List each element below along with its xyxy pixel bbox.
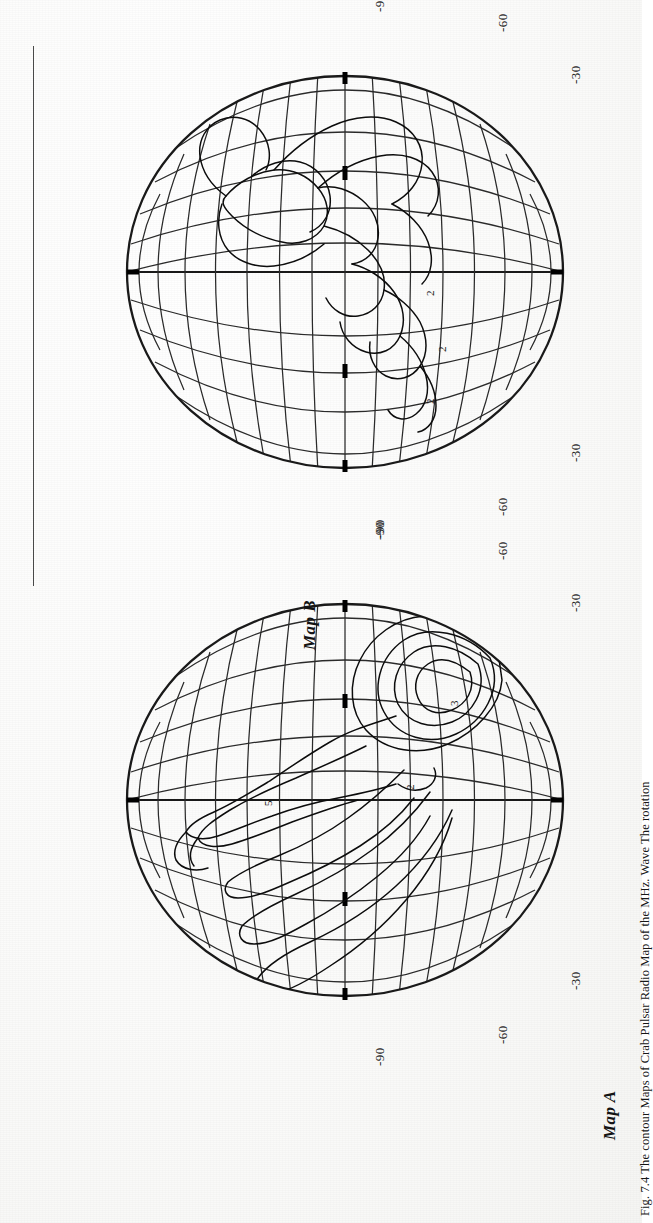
map-a-label-minus30-bottom: -30 — [568, 971, 584, 990]
map-a-contour-label-3: 3 — [448, 701, 460, 707]
map-a-contour-label-2: 2 — [404, 785, 416, 791]
map-b-contours — [200, 117, 439, 432]
map-b-title: Map B — [300, 600, 320, 650]
map-b-contour-label-2a: 2 — [424, 291, 436, 297]
map-b-label-minus30-bottom: -30 — [568, 443, 584, 462]
map-a-title: Map A — [600, 1090, 620, 1140]
map-b-contour-label-2c: 2 — [424, 399, 436, 405]
map-a-label-minus30-top: -30 — [568, 593, 584, 612]
map-b-label-minus60-top: -60 — [495, 13, 511, 32]
map-b-label-minus60-bottom: -60 — [495, 497, 511, 516]
map-a-label-minus90-right: -90 — [372, 1047, 388, 1066]
map-b-contour-label-2b: 2 — [436, 347, 448, 353]
map-a-contours — [175, 616, 502, 994]
map-b-label-minus90-left: -90 — [372, 0, 388, 12]
map-a-contour-label-5: 5 — [262, 801, 274, 807]
map-b-label-minus30-top: -30 — [568, 65, 584, 84]
figure-caption: Fig. 7.4 The contour Maps of Crab Pulsar… — [638, 781, 653, 1216]
map-b-label-minus90-right: -90 — [372, 519, 388, 538]
map-a-label-minus60-top: -60 — [495, 541, 511, 560]
map-a-label-minus60-bottom: -60 — [495, 1025, 511, 1044]
